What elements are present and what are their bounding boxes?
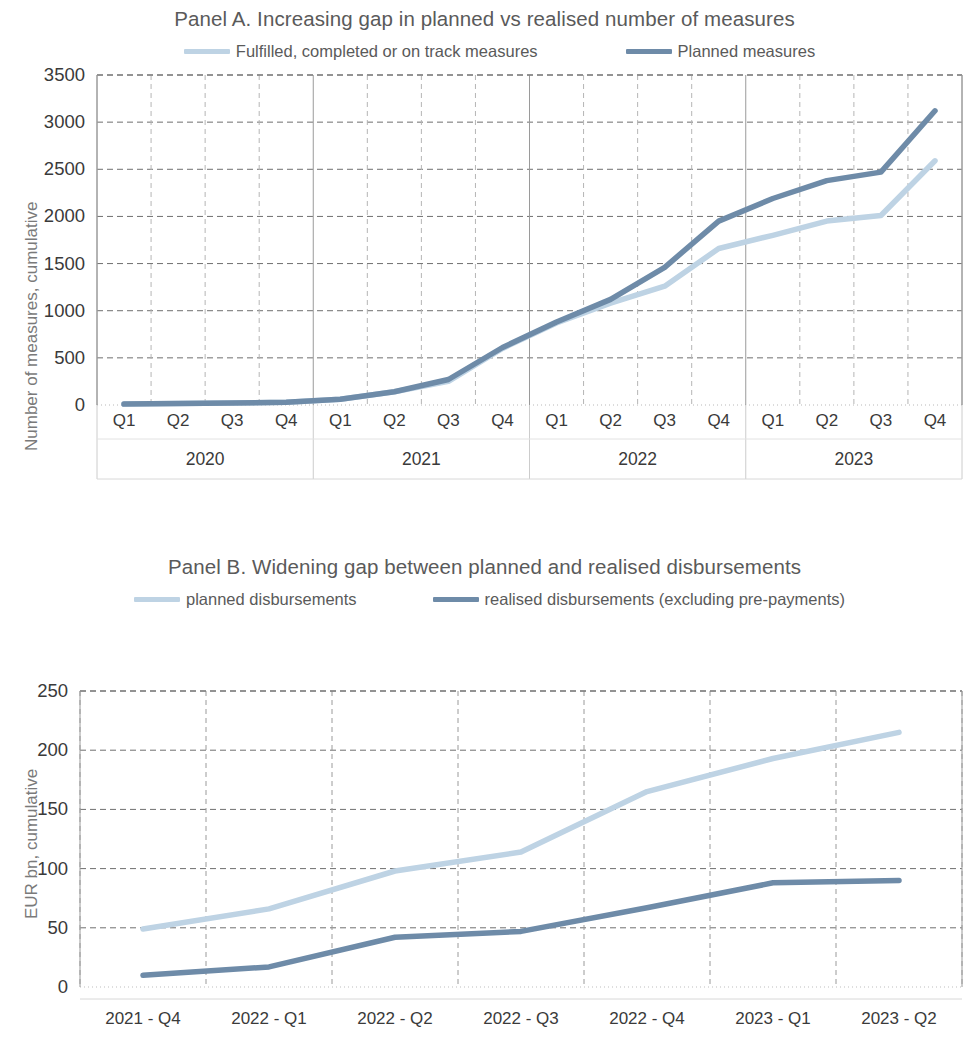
legend-label-planned-disbursements: planned disbursements [186,590,357,609]
x-tick-label: Q1 [743,411,803,431]
y-tick-label: 500 [5,347,85,369]
y-tick-label: 1500 [5,253,85,275]
x-tick-label: 2022 - Q3 [451,1009,591,1029]
panel-b-title: Panel B. Widening gap between planned an… [0,540,969,580]
panel-a-title: Panel A. Increasing gap in planned vs re… [0,0,969,32]
y-tick-label: 200 [0,739,68,761]
panel-a-plot: Number of measures, cumulative 350030002… [0,61,969,481]
x-group-label: 2022 [588,449,688,470]
legend-swatch-dark-icon [626,49,672,54]
y-tick-label: 3500 [5,64,85,86]
y-tick-label: 0 [0,976,68,998]
x-tick-label: Q3 [635,411,695,431]
legend-item-planned: Planned measures [626,42,816,61]
y-tick-label: 2500 [5,158,85,180]
x-group-label: 2023 [804,449,904,470]
panel-b-y-axis-label: EUR bn, cumulative [22,769,42,919]
panel-b-plot: EUR bn, cumulative 250200150100500 2021 … [0,609,969,1039]
x-tick-label: Q2 [797,411,857,431]
x-tick-label: 2022 - Q4 [577,1009,717,1029]
y-tick-label: 3000 [5,111,85,133]
y-tick-label: 0 [5,394,85,416]
x-tick-label: 2022 - Q2 [325,1009,465,1029]
legend-swatch-dark-icon [433,597,479,602]
panel-b: Panel B. Widening gap between planned an… [0,540,969,1044]
panel-b-chart-canvas [0,609,969,1039]
y-tick-label: 250 [0,680,68,702]
y-tick-label: 50 [0,917,68,939]
legend-label-planned: Planned measures [678,42,816,61]
y-tick-label: 1000 [5,300,85,322]
y-tick-label: 100 [0,858,68,880]
panel-b-legend: planned disbursements realised disbursem… [0,590,969,609]
x-tick-label: Q3 [851,411,911,431]
legend-label-realised-disbursements: realised disbursements (excluding pre-pa… [485,590,845,609]
panel-a: Panel A. Increasing gap in planned vs re… [0,0,969,500]
x-group-label: 2021 [371,449,471,470]
x-tick-label: Q1 [310,411,370,431]
legend-swatch-light-icon [134,597,180,602]
x-tick-label: Q1 [527,411,587,431]
x-tick-label: Q4 [256,411,316,431]
x-tick-label: Q2 [581,411,641,431]
x-tick-label: Q4 [472,411,532,431]
x-tick-label: Q4 [689,411,749,431]
legend-item-planned-disbursements: planned disbursements [134,590,357,609]
x-tick-label: 2022 - Q1 [199,1009,339,1029]
x-tick-label: 2023 - Q2 [829,1009,969,1029]
legend-item-realised-disbursements: realised disbursements (excluding pre-pa… [433,590,845,609]
x-tick-label: 2021 - Q4 [73,1009,213,1029]
legend-swatch-light-icon [184,49,230,54]
panel-a-legend: Fulfilled, completed or on track measure… [0,42,969,61]
x-tick-label: Q2 [364,411,424,431]
x-tick-label: Q3 [202,411,262,431]
x-tick-label: 2023 - Q1 [703,1009,843,1029]
legend-label-fulfilled: Fulfilled, completed or on track measure… [236,42,538,61]
y-tick-label: 150 [0,798,68,820]
x-tick-label: Q4 [905,411,965,431]
x-group-label: 2020 [155,449,255,470]
x-tick-label: Q1 [94,411,154,431]
x-tick-label: Q3 [418,411,478,431]
legend-item-fulfilled: Fulfilled, completed or on track measure… [184,42,538,61]
x-tick-label: Q2 [148,411,208,431]
y-tick-label: 2000 [5,205,85,227]
